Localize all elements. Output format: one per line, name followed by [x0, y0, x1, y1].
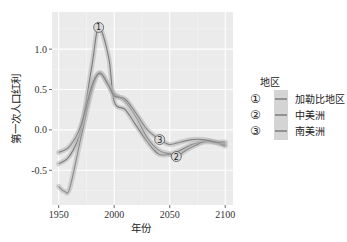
y-tick-label: -0.5	[31, 165, 47, 176]
line-chart: 1950200020502100-0.50.00.51.0年份第一次人口红利 1…	[0, 0, 347, 242]
legend-label: 加勒比地区	[295, 93, 345, 105]
x-tick-label: 2100	[215, 209, 235, 220]
legend-marker-icon: ③	[250, 124, 261, 138]
legend-title: 地区	[260, 76, 280, 88]
y-tick-label: 0.0	[35, 124, 48, 135]
legend-marker-icon: ①	[250, 92, 261, 106]
x-tick-label: 2000	[104, 209, 124, 220]
panel-background	[52, 12, 233, 205]
legend-marker-icon: ②	[250, 108, 261, 122]
x-tick-label: 2050	[160, 209, 180, 220]
series-marker-label: 1	[96, 23, 101, 32]
series-marker-label: 3	[157, 136, 162, 145]
plot-panel	[52, 12, 233, 205]
x-axis-title: 年份	[131, 222, 152, 234]
legend-item-caribbean[interactable]: ①加勒比地区	[250, 92, 345, 106]
legend-label: 中美洲	[295, 109, 325, 121]
series-marker-label: 2	[174, 153, 179, 162]
y-tick-label: 1.0	[35, 44, 48, 55]
x-tick-label: 1950	[49, 209, 69, 220]
legend-label: 南美洲	[295, 125, 325, 137]
legend: 地区①加勒比地区②中美洲③南美洲	[250, 76, 345, 140]
y-axis-title: 第一次人口红利	[10, 74, 22, 144]
y-tick-label: 0.5	[35, 84, 48, 95]
